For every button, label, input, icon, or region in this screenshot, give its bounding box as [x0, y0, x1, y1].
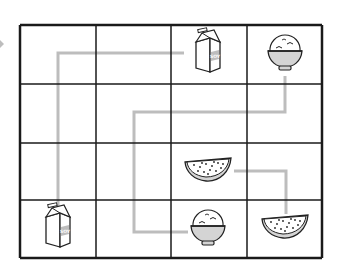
grid-cell-r3-c2: [191, 210, 225, 245]
milk-carton-icon: SOY: [46, 203, 71, 247]
grid-cell-r3-c0: SOY: [46, 203, 71, 247]
watermelon-slice-icon: [262, 215, 308, 238]
puzzle-stage: SOYSOY: [0, 0, 340, 272]
watermelon-slice-icon: [185, 158, 231, 181]
puzzle-grid: SOYSOY: [0, 0, 340, 272]
milk-path: [58, 53, 184, 213]
carton-label: SOY: [210, 54, 221, 59]
milk-carton-icon: SOY: [196, 28, 221, 72]
watermelon-path: [234, 171, 286, 214]
grid-cell-r0-c3: [268, 35, 302, 70]
grid-items: SOYSOY: [46, 28, 308, 247]
rice-bowl-icon: [268, 35, 302, 70]
grid-cell-r2-c2: [185, 158, 231, 181]
grid-cell-r3-c3: [262, 215, 308, 238]
rice-path: [134, 76, 285, 232]
rice-bowl-icon: [191, 210, 225, 245]
grid-cell-r0-c2: SOY: [196, 28, 221, 72]
arrow-marker-icon: [0, 40, 4, 48]
carton-label: SOY: [60, 229, 71, 234]
